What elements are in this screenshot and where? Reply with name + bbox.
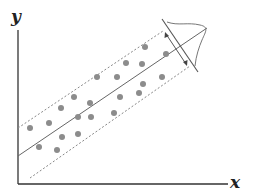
upper-band-line — [18, 31, 163, 128]
regression-diagram: y x — [0, 0, 257, 194]
x-axis-label: x — [230, 174, 240, 191]
y-axis-label: y — [11, 8, 21, 25]
perpendicular-line — [162, 19, 198, 72]
regression-line — [18, 28, 207, 156]
data-points — [27, 44, 169, 153]
lower-band-line — [30, 66, 190, 178]
diagram-svg — [0, 0, 257, 194]
